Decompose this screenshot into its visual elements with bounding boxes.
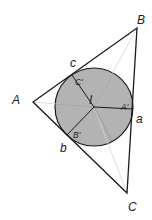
label-side-a: a bbox=[136, 112, 143, 126]
label-side-c: c bbox=[70, 56, 76, 70]
label-vertex-c: C bbox=[128, 200, 137, 214]
label-vertex-b: B bbox=[137, 13, 145, 27]
label-a-prime: A' bbox=[120, 102, 129, 112]
incircle-diagram: A B C I A' B' C' a b c bbox=[0, 0, 152, 220]
label-side-b: b bbox=[60, 141, 67, 155]
label-vertex-a: A bbox=[11, 93, 20, 107]
label-c-prime: C' bbox=[75, 77, 83, 87]
label-b-prime: B' bbox=[73, 130, 81, 140]
